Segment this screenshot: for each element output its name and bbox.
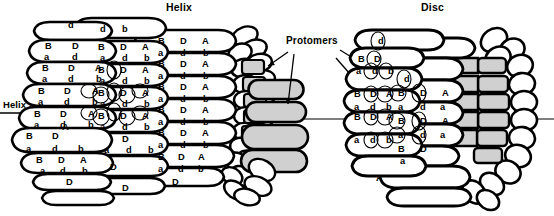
label: a bbox=[26, 144, 32, 154]
label: d bbox=[122, 76, 128, 86]
label: d bbox=[180, 117, 186, 127]
label: d bbox=[122, 53, 128, 63]
label: a bbox=[34, 120, 40, 130]
label: D bbox=[172, 177, 179, 187]
label: B bbox=[158, 128, 165, 138]
label: b bbox=[203, 94, 209, 104]
label: d bbox=[370, 135, 376, 145]
label: a bbox=[44, 52, 50, 62]
label: b bbox=[78, 144, 84, 154]
label: a bbox=[100, 99, 106, 109]
label: D bbox=[420, 144, 427, 154]
label: b bbox=[144, 53, 150, 63]
label: a bbox=[440, 130, 446, 140]
label: a bbox=[158, 164, 164, 174]
label: d bbox=[126, 145, 132, 155]
label: B bbox=[38, 86, 45, 96]
label: d bbox=[378, 36, 384, 46]
label: b bbox=[203, 117, 209, 127]
label: B bbox=[158, 105, 165, 115]
label: b bbox=[203, 71, 209, 81]
label: A bbox=[202, 105, 209, 115]
label: B bbox=[398, 88, 405, 98]
label: B bbox=[158, 82, 165, 92]
label: A bbox=[202, 36, 209, 46]
label: A bbox=[376, 173, 383, 183]
label: A bbox=[142, 42, 149, 52]
label: D bbox=[122, 134, 129, 144]
label: B bbox=[354, 112, 361, 122]
label: d bbox=[404, 74, 410, 84]
label: b bbox=[82, 166, 88, 176]
label: A bbox=[442, 88, 449, 98]
label: a bbox=[398, 130, 404, 140]
label: D bbox=[72, 41, 79, 51]
label: D bbox=[180, 59, 187, 69]
label: d bbox=[122, 99, 128, 109]
label: D bbox=[122, 183, 129, 193]
label: a bbox=[400, 156, 406, 166]
label: A bbox=[80, 155, 87, 165]
label: d bbox=[180, 94, 186, 104]
label: D bbox=[180, 105, 187, 115]
label: A bbox=[202, 59, 209, 69]
label: B bbox=[98, 111, 105, 121]
label: d bbox=[420, 102, 426, 112]
label: d bbox=[100, 24, 106, 34]
label: D bbox=[370, 89, 377, 99]
label: B bbox=[34, 109, 41, 119]
label: a bbox=[398, 102, 404, 112]
label: D bbox=[180, 128, 187, 138]
label: d bbox=[178, 164, 184, 174]
label: A bbox=[62, 122, 69, 132]
label: D bbox=[68, 63, 75, 73]
label: a bbox=[354, 102, 360, 112]
label: D bbox=[180, 82, 187, 92]
label: B bbox=[26, 131, 33, 141]
label: D bbox=[370, 112, 377, 122]
label: a bbox=[158, 48, 164, 58]
label: B bbox=[98, 65, 105, 75]
label: b bbox=[203, 140, 209, 150]
label: B bbox=[358, 54, 365, 64]
label: B bbox=[42, 63, 49, 73]
label: b bbox=[144, 76, 150, 86]
label: a bbox=[354, 135, 360, 145]
label: a bbox=[38, 97, 44, 107]
label: a bbox=[356, 66, 362, 76]
label: A bbox=[142, 65, 149, 75]
label: a bbox=[42, 74, 48, 84]
label: D bbox=[66, 177, 73, 187]
label: d bbox=[72, 52, 78, 62]
label: D bbox=[110, 162, 117, 172]
label: a bbox=[158, 71, 164, 81]
label: B bbox=[98, 42, 105, 52]
label: d bbox=[60, 166, 66, 176]
label: d bbox=[68, 74, 74, 84]
label: D bbox=[58, 155, 65, 165]
label: A bbox=[202, 128, 209, 138]
label: b bbox=[198, 164, 204, 174]
label: D bbox=[64, 86, 71, 96]
label: a bbox=[158, 117, 164, 127]
label: b bbox=[88, 120, 94, 130]
label: B bbox=[45, 41, 52, 51]
label: D bbox=[52, 131, 59, 141]
label: b bbox=[122, 24, 128, 34]
label: D bbox=[180, 36, 187, 46]
label: B bbox=[36, 155, 43, 165]
label: a bbox=[440, 102, 446, 112]
label: a bbox=[100, 53, 106, 63]
label: d bbox=[64, 97, 70, 107]
label: d bbox=[180, 71, 186, 81]
label: B bbox=[354, 89, 361, 99]
label: B bbox=[158, 59, 165, 69]
label: D bbox=[178, 152, 185, 162]
label: d bbox=[180, 48, 186, 58]
label: A bbox=[202, 82, 209, 92]
label: a bbox=[158, 94, 164, 104]
label: D bbox=[60, 109, 67, 119]
label: B bbox=[98, 88, 105, 98]
label: d bbox=[68, 20, 74, 30]
label: d bbox=[52, 144, 58, 154]
